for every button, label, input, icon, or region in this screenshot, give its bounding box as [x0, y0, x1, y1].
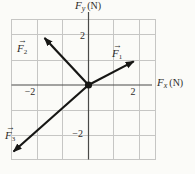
vector-label-F1: →F1	[112, 44, 122, 61]
vector-arrow-icon: →	[18, 36, 27, 45]
vector-arrow-icon: →	[6, 123, 15, 132]
vector-arrow-icon: →	[113, 41, 122, 50]
vector-F2	[45, 38, 89, 85]
x-tick-neg2: −2	[18, 87, 42, 97]
x-axis-symbol: F	[157, 76, 164, 88]
x-axis-label: Fx(N)	[157, 77, 183, 90]
force-vector-figure: Fy(N) Fx(N) 2 −2 −2 2 →F1 →F2 →F3	[0, 0, 195, 174]
vector-label-F2: →F2	[17, 39, 27, 56]
vector-F1	[89, 61, 134, 85]
y-axis-label: Fy(N)	[58, 0, 118, 13]
y-tick-neg2: −2	[58, 129, 83, 139]
x-tick-2: 2	[121, 87, 145, 97]
origin-dot	[85, 81, 92, 88]
vector-label-F3: →F3	[5, 126, 15, 143]
y-axis-symbol: F	[75, 0, 82, 11]
y-tick-2: 2	[66, 31, 85, 41]
